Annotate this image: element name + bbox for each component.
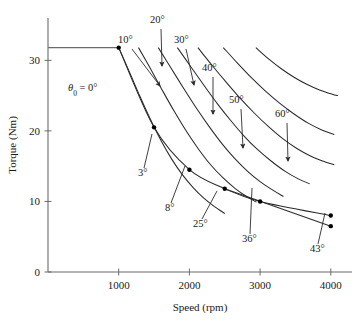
x-axis-title: Speed (rpm) xyxy=(173,301,228,314)
x-tick-label: 2000 xyxy=(178,279,201,291)
annotation-label-a3: 3° xyxy=(138,167,147,178)
annotation-label-a50: 50° xyxy=(229,94,244,105)
x-tick-label: 4000 xyxy=(320,279,343,291)
annotation-label-a40: 40° xyxy=(202,62,217,73)
data-point-marker xyxy=(329,213,333,217)
y-tick-label: 20 xyxy=(29,125,41,137)
annotation-label-a20: 20° xyxy=(150,14,165,25)
data-point-marker xyxy=(116,45,120,49)
x-tick-label: 3000 xyxy=(249,279,272,291)
data-point-marker xyxy=(223,187,227,191)
annotation-label-a60: 60° xyxy=(275,108,290,119)
data-point-marker xyxy=(329,224,333,228)
annotation-label-a10: 10° xyxy=(118,34,133,45)
annotation-label-a43: 43° xyxy=(310,243,325,254)
annotation-label-a8: 8° xyxy=(165,202,174,213)
annotation-label-a30: 30° xyxy=(174,34,189,45)
y-tick-label: 10 xyxy=(29,195,41,207)
torque-speed-chart: 1000200030004000 0102030 θ0 = 0°10°20°30… xyxy=(0,0,362,324)
data-point-marker xyxy=(152,125,156,129)
x-tick-label: 1000 xyxy=(108,279,131,291)
y-axis-title: Torque (Nm) xyxy=(6,116,19,174)
annotation-label-a25: 25° xyxy=(193,218,208,229)
data-point-marker xyxy=(187,167,191,171)
y-tick-label: 30 xyxy=(29,54,41,66)
annotation-label-a36: 36° xyxy=(242,233,257,244)
y-tick-label: 0 xyxy=(35,266,41,278)
data-point-marker xyxy=(258,199,262,203)
chart-figure: 1000200030004000 0102030 θ0 = 0°10°20°30… xyxy=(0,0,362,324)
